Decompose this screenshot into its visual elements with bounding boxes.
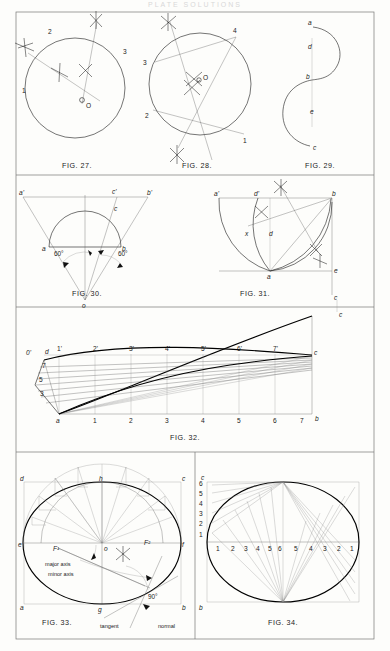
label-fig32-b: b — [315, 415, 319, 422]
label-fig34-br4: 4 — [309, 545, 313, 552]
figure-28: 4 3 2 1 O FIG. 28. — [143, 13, 251, 170]
label-fig27-O: O — [86, 102, 91, 109]
label-fig32-b6: 6 — [273, 417, 277, 424]
label-fig34-br2: 2 — [337, 545, 341, 552]
label-fig34-bl4: 4 — [256, 545, 260, 552]
caption-fig34: FIG. 34. — [268, 618, 298, 627]
label-fig31-a: a — [267, 273, 271, 280]
label-fig30-a: a — [42, 245, 46, 252]
label-fig32-t0: 0' — [26, 349, 32, 356]
label-fig34-l6: 6 — [199, 480, 203, 487]
figure-33: d h c e F¹ o F² f a g b major axis minor… — [18, 464, 186, 629]
label-fig34-bl3: 3 — [244, 545, 248, 552]
label-fig28-3: 3 — [143, 59, 147, 66]
label-fig32-t1: 1' — [57, 345, 62, 352]
figure-30: a' c' b' a c b o 60° 60° FIG. 30. — [19, 188, 153, 309]
label-fig34-bl5: 5 — [268, 545, 272, 552]
caption-fig27: FIG. 27. — [62, 161, 92, 170]
caption-fig30: FIG. 30. — [72, 289, 102, 298]
caption-fig29: FIG. 29. — [305, 161, 335, 170]
label-fig34-br3: 3 — [323, 545, 327, 552]
label-fig34-b: b — [199, 604, 203, 611]
annotation-90deg: 90° — [148, 593, 158, 600]
label-fig33-o: o — [104, 545, 108, 552]
label-fig33-g: g — [98, 606, 102, 614]
label-fig34-bl6: 6 — [278, 545, 282, 552]
label-fig32-d: d — [45, 348, 49, 355]
label-fig34-bl2: 2 — [231, 545, 235, 552]
label-fig32-b7: 7 — [300, 417, 304, 424]
caption-fig33: FIG. 33. — [42, 618, 72, 627]
caption-fig31: FIG. 31. — [240, 289, 270, 298]
label-fig32-l5: 5 — [39, 376, 43, 383]
drawing-plate: PLATE SOLUTIONS 1 — [0, 0, 390, 651]
construction-crosses-31 — [255, 179, 327, 268]
label-fig33-h: h — [99, 475, 103, 482]
label-fig29-a: a — [308, 19, 312, 26]
label-fig33-c: c — [182, 475, 186, 482]
label-fig31-x: x — [244, 230, 249, 237]
label-fig30-cp: c' — [112, 188, 117, 195]
label-fig28-1: 1 — [243, 137, 247, 144]
label-fig29-c: c — [313, 144, 317, 151]
label-fig28-4: 4 — [233, 27, 237, 34]
label-fig32-t6: 6' — [237, 345, 242, 352]
label-fig33-e: e — [18, 541, 22, 548]
label-fig32-t3: 3' — [129, 345, 134, 352]
label-fig32-t2: 2' — [93, 345, 98, 352]
label-fig29-d: d — [308, 43, 312, 50]
label-fig31-dp: d' — [254, 190, 260, 197]
label-fig32-l3: 3 — [40, 390, 44, 397]
label-fig32-a: a — [56, 417, 60, 424]
label-fig34-l4: 4 — [199, 500, 203, 507]
label-fig32-b2: 2 — [129, 417, 133, 424]
label-fig31-c: c — [334, 294, 338, 301]
label-fig33-F1: F¹ — [53, 545, 60, 552]
annotation-major-axis: major axis — [45, 561, 71, 567]
figure-29: a d b e c FIG. 29. — [283, 19, 340, 170]
label-fig34-l1: 1 — [199, 531, 203, 538]
label-fig30-o: o — [82, 302, 86, 309]
label-fig31-b: b — [332, 190, 336, 197]
angle-fig30-right: 60° — [118, 250, 128, 257]
label-fig27-2: 2 — [48, 28, 52, 35]
annotation-tangent: tangent — [100, 623, 119, 629]
label-fig33-f: f — [182, 541, 185, 548]
figure-32: a 1 2 3 4 5 6 7 b 0' 1' 2' 3' 4' 5' 6' 7… — [26, 300, 343, 442]
label-fig32-t4: 4' — [165, 345, 170, 352]
label-fig34-l5: 5 — [199, 490, 203, 497]
label-fig34-l2: 2 — [199, 520, 203, 527]
label-fig31-e: e — [334, 267, 338, 274]
fan-lines-right-34 — [283, 482, 355, 601]
label-fig32-topc: c — [339, 311, 343, 318]
figure-34: 6 5 4 3 2 1 c b 1 2 3 4 5 6 5 4 3 2 1 FI… — [199, 474, 359, 627]
label-fig34-l3: 3 — [199, 510, 203, 517]
caption-fig32: FIG. 32. — [170, 433, 200, 442]
caption-fig28: FIG. 28. — [182, 161, 212, 170]
label-fig34-br1: 1 — [350, 545, 354, 552]
label-fig33-d: d — [20, 475, 24, 482]
fan-lines-left-34 — [212, 482, 283, 533]
label-fig33-b: b — [182, 604, 186, 611]
plate-canvas: 1 2 3 O FIG. 27. 4 3 2 1 — [0, 0, 390, 651]
label-fig32-l7: 7 — [42, 362, 46, 369]
label-fig33-a: a — [20, 604, 24, 611]
figure-31: a' d' b x d a e c FIG. 31. — [214, 179, 338, 301]
label-fig31-ap: a' — [214, 190, 220, 197]
label-fig29-e: e — [310, 108, 314, 115]
label-fig28-O: O — [203, 74, 208, 81]
label-fig30-bp: b' — [147, 189, 153, 196]
label-fig28-2: 2 — [145, 112, 149, 119]
label-fig32-b4: 4 — [201, 417, 205, 424]
label-fig30-ap: a' — [19, 189, 25, 196]
label-fig34-c: c — [201, 474, 205, 481]
label-fig32-t7: 7' — [273, 345, 278, 352]
label-fig32-b5: 5 — [237, 417, 241, 424]
label-fig32-c: c — [314, 349, 318, 356]
figure-27: 1 2 3 O FIG. 27. — [15, 11, 127, 170]
label-fig29-b: b — [306, 73, 310, 80]
label-fig27-1: 1 — [22, 87, 26, 94]
label-fig30-c: c — [114, 205, 118, 212]
annotation-minor-axis: minor axis — [48, 571, 74, 577]
label-fig34-bl1: 1 — [216, 545, 220, 552]
